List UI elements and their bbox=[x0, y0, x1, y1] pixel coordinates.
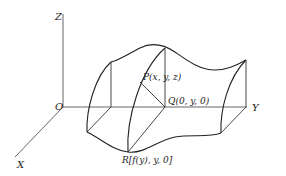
point-q-label: Q(0, y, 0) bbox=[168, 96, 210, 106]
p-to-q-segment bbox=[140, 82, 165, 107]
left-cross-section bbox=[87, 62, 111, 132]
top-profile-curve bbox=[111, 45, 246, 70]
y-axis-label: Y bbox=[252, 102, 260, 113]
right-cross-section bbox=[221, 60, 246, 133]
bottom-profile-curve bbox=[87, 132, 221, 152]
solid-region-diagram: Z Y X O P(x, y, z) Q(0, y, 0) R[f(y), y,… bbox=[0, 0, 286, 176]
axes bbox=[15, 14, 247, 157]
x-axis-label: X bbox=[16, 159, 25, 170]
middle-cross-section bbox=[128, 48, 165, 152]
z-axis-label: Z bbox=[54, 11, 63, 22]
origin-label: O bbox=[55, 101, 63, 112]
x-axis bbox=[15, 107, 63, 157]
point-p-label: P(x, y, z) bbox=[142, 72, 182, 82]
point-r-label: R[f(y), y, 0] bbox=[121, 155, 173, 165]
